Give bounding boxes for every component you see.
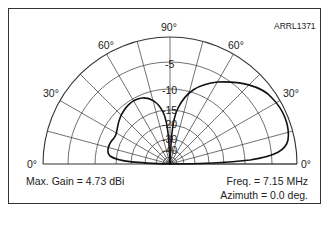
ring-label: -15: [162, 104, 177, 116]
angle-label-90: 90°: [161, 21, 177, 33]
angle-label-60-right: 60°: [228, 39, 244, 51]
ring-label: -5: [165, 58, 174, 70]
figure-id: ARRL1371: [274, 21, 316, 31]
freq-text: Freq. = 7.15 MHz: [227, 175, 308, 187]
max-gain-text: Max. Gain = 4.73 dBi: [26, 175, 124, 187]
right-lobe: [170, 82, 288, 164]
angle-label-30-left: 30°: [43, 87, 59, 99]
left-lobe: [108, 98, 170, 164]
ring-label: -10: [162, 84, 177, 96]
ring-label: -40: [162, 144, 177, 156]
angle-label-60-left: 60°: [98, 39, 114, 51]
ring-label: -20: [162, 118, 177, 130]
angle-label-30-right: 30°: [283, 87, 299, 99]
angle-label-0-left: 0°: [27, 158, 37, 170]
azimuth-text: Azimuth = 0.0 deg.: [220, 189, 308, 201]
angle-label-0-right: 0°: [301, 158, 311, 170]
